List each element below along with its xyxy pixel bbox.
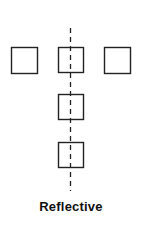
square-right: [105, 48, 131, 74]
reflective-symmetry-diagram: [0, 0, 142, 226]
square-center-middle: [59, 95, 84, 120]
square-left: [12, 48, 38, 74]
diagram-caption: Reflective: [0, 199, 142, 214]
